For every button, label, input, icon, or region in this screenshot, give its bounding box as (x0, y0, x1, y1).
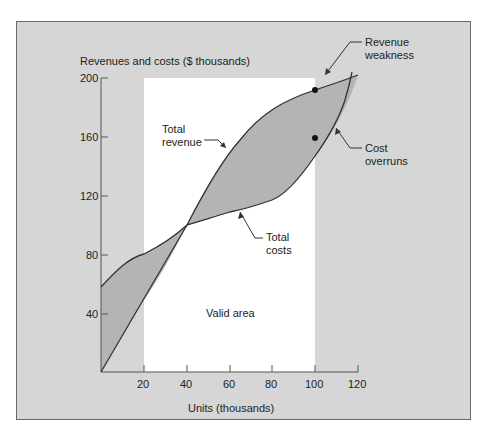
y-tick-80: 80 (86, 249, 98, 261)
label-revenue-weakness: Revenue weakness (365, 36, 414, 62)
y-tick-160: 160 (80, 131, 98, 143)
label-total-revenue: Total revenue (162, 123, 202, 149)
y-axis-ticks (101, 78, 108, 314)
x-axis-label: Units (thousands) (188, 402, 274, 415)
x-tick-40: 40 (180, 378, 192, 390)
y-tick-120: 120 (80, 190, 98, 202)
label-cost-overruns: Cost overruns (365, 142, 408, 168)
cost-marker-100 (312, 135, 318, 141)
y-tick-40: 40 (86, 308, 98, 320)
x-tick-20: 20 (137, 378, 149, 390)
x-tick-60: 60 (223, 378, 235, 390)
x-tick-120: 120 (348, 378, 366, 390)
y-tick-200: 200 (80, 72, 98, 84)
x-tick-80: 80 (265, 378, 277, 390)
revenue-marker-100 (312, 87, 318, 93)
y-axis-label: Revenues and costs ($ thousands) (80, 55, 250, 68)
label-total-costs: Total costs (266, 231, 292, 257)
x-tick-100: 100 (305, 378, 323, 390)
label-valid-area: Valid area (206, 307, 255, 320)
